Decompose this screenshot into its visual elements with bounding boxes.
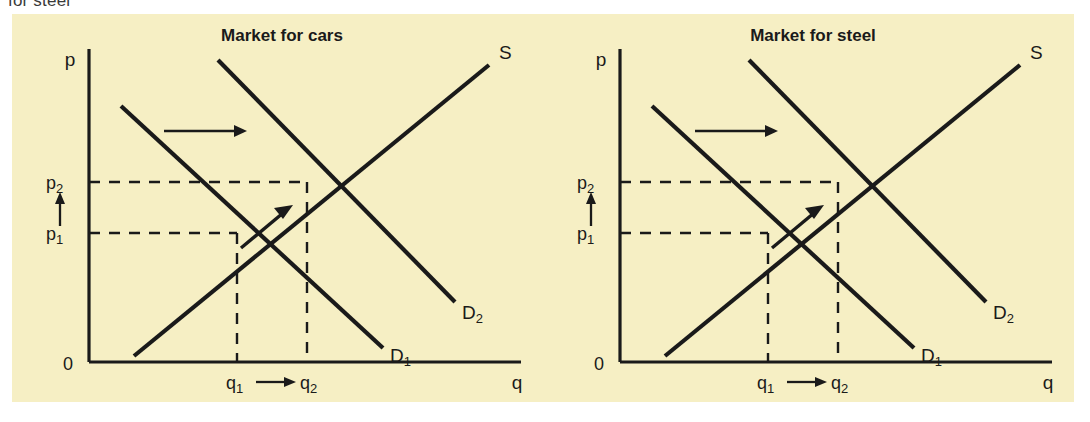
demand2-curve-label-steel: D2 (993, 302, 1014, 326)
x-tick-q2-cars: q2 (300, 373, 317, 396)
demand1-curve-cars (121, 106, 383, 348)
demand1-curve-label-cars: D1 (390, 345, 411, 369)
origin-label-steel: 0 (594, 354, 604, 374)
demand1-curve-label-steel: D1 (921, 345, 942, 369)
supply-curve-steel (665, 65, 1020, 356)
x-tick-q1-cars: q1 (226, 373, 243, 396)
y-tick-p1-steel: p1 (577, 224, 594, 247)
x-tick-q2-steel: q2 (831, 373, 848, 396)
supply-movement-arrow-shaft-cars (241, 213, 283, 248)
x-axis-label-steel: q (1043, 372, 1054, 393)
x-tick-q1-steel: q1 (757, 373, 774, 396)
demand-shift-arrow-head-steel (765, 125, 778, 137)
y-axis-label-cars: p (65, 49, 76, 70)
supply-curve-label-cars: S (499, 42, 512, 63)
supply-movement-arrow-shaft-steel (772, 213, 814, 248)
demand2-curve-label-cars: D2 (462, 302, 483, 326)
y-tick-p1-cars: p1 (46, 224, 63, 247)
origin-label-cars: 0 (63, 354, 73, 374)
cut-off-caption: for steel (8, 0, 70, 11)
supply-curve-cars (134, 65, 489, 356)
quantity-rise-arrow-head-cars (284, 377, 296, 387)
chart-title-cars: Market for cars (221, 26, 343, 45)
y-axis-label-steel: p (596, 49, 607, 70)
quantity-rise-arrow-head-steel (815, 377, 827, 387)
y-tick-p2-cars: p2 (46, 173, 63, 196)
y-tick-p2-steel: p2 (577, 173, 594, 196)
chart-title-steel: Market for steel (750, 26, 876, 45)
supply-curve-label-steel: S (1030, 42, 1043, 63)
demand-shift-arrow-head-cars (234, 125, 247, 137)
figure-panel: Market for cars p q 0 p2 p1 q1 q2 S (12, 14, 1074, 402)
x-axis-label-cars: q (512, 372, 523, 393)
chart-market-for-steel: Market for steel p q 0 p2 p1 q1 q2 S D1 (543, 14, 1074, 402)
demand1-curve-steel (652, 106, 914, 348)
chart-market-for-cars: Market for cars p q 0 p2 p1 q1 q2 S (12, 14, 543, 402)
